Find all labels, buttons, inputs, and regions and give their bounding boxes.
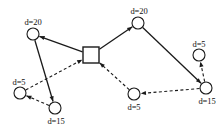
edge-depot-to-d20-top-right-arrowhead (127, 27, 132, 32)
edge-d15-right-to-d5-right-arrowhead (199, 62, 203, 68)
customer-node-d5-bottom-label: d=5 (128, 103, 141, 112)
customer-node-d20-top-right-label: d=20 (130, 7, 147, 16)
customer-node-d5-bottom[interactable] (128, 88, 140, 100)
edge-depot-to-d20-top-right (99, 27, 132, 49)
edge-d15-bottom-left-to-d5-left-arrowhead (26, 96, 32, 100)
customer-node-d5-left[interactable] (14, 87, 26, 99)
edge-d20-top-left-to-d15-bottom-left (35, 40, 53, 101)
customer-node-d20-top-right[interactable] (132, 17, 144, 29)
edge-layer (26, 27, 205, 106)
customer-node-d15-bottom-left-label: d=15 (47, 117, 64, 126)
depot-node[interactable] (83, 47, 99, 63)
customer-node-d20-top-left-label: d=20 (24, 18, 41, 27)
edge-d5-left-to-depot-arrowhead (77, 60, 83, 64)
edge-depot-to-d20-top-left (39, 36, 82, 52)
edge-d5-left-to-depot (26, 60, 83, 90)
customer-node-d5-right[interactable] (193, 49, 205, 61)
edge-d20-top-right-to-d15-right (143, 27, 201, 83)
customer-node-d5-left-label: d=5 (13, 78, 26, 87)
customer-node-d15-right[interactable] (200, 82, 212, 94)
customer-node-d5-right-label: d=5 (193, 40, 206, 49)
customer-node-d20-top-left[interactable] (27, 28, 39, 40)
edge-d15-right-to-d5-bottom (141, 89, 200, 94)
edge-d15-right-to-d5-bottom-arrowhead (141, 91, 146, 95)
edge-d5-bottom-to-depot (100, 63, 130, 90)
customer-node-d15-right-label: d=15 (198, 97, 215, 106)
routing-diagram-figure: d=20d=20d=5d=15d=5d=15d=5 (0, 0, 224, 133)
edge-depot-to-d20-top-left-arrowhead (39, 36, 45, 40)
customer-node-d15-bottom-left[interactable] (49, 102, 61, 114)
edge-d20-top-left-to-d15-bottom-left-arrowhead (50, 96, 54, 102)
